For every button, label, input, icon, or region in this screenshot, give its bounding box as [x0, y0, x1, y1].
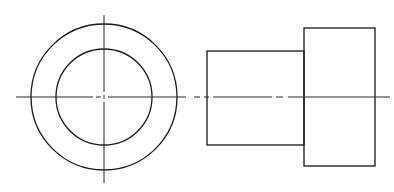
technical-drawing — [0, 0, 394, 192]
side-view — [204, 28, 390, 166]
front-view — [16, 15, 200, 183]
small-cylinder-outline — [207, 51, 304, 145]
